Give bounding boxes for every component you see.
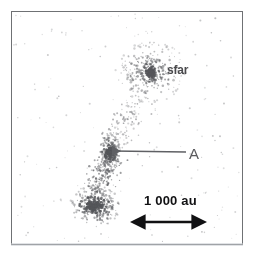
star-label: sfar — [167, 64, 188, 76]
bottom-edge-tint — [11, 243, 243, 246]
figure-root: sfar A 1 000 au — [0, 0, 258, 261]
clump-a-label: A — [189, 146, 199, 161]
particle-scatter-plot — [0, 0, 258, 261]
scalebar-label: 1 000 au — [144, 194, 197, 207]
